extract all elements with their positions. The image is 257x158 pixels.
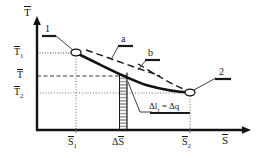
x-axis-label-text: S (222, 134, 228, 146)
dashed-curve-b (138, 64, 190, 92)
y-axis-arrowhead (33, 16, 41, 25)
hatch-fill (120, 73, 128, 130)
area-annotation-dq: Δq (169, 101, 179, 111)
y-tick-label-T1: T1 (14, 46, 24, 60)
y-tick-label-T1-sub: 1 (20, 52, 23, 59)
x-tick-label-delta-S: ΔS (112, 136, 124, 147)
callout-label-a: a (121, 34, 125, 44)
x-tick-label-S2-sub: 2 (188, 142, 191, 149)
area-annotation-equals: = (160, 101, 169, 111)
y-tick-label-T2-sub: 2 (20, 92, 23, 99)
guide-lines (37, 53, 190, 130)
x-axis-label: S (222, 134, 228, 146)
main-process-curve (74, 52, 190, 93)
point-2-marker (185, 89, 195, 96)
leader-line-1 (55, 35, 74, 51)
callout-label-1: 1 (45, 24, 50, 34)
callout-leaders (55, 35, 216, 112)
temperature-entropy-diagram: T S T1 T T2 S1 ΔS S2 1 a b 2 Δlτ = Δq (0, 0, 257, 158)
y-axis-label-text: T (24, 6, 31, 18)
y-tick-label-T: T (17, 69, 23, 80)
x-tick-label-S1-sub: 1 (74, 142, 77, 149)
x-tick-label-S2: S2 (182, 136, 191, 150)
callout-label-b: b (148, 48, 153, 58)
callout-label-2: 2 (219, 67, 224, 77)
x-tick-label-S1: S1 (68, 136, 77, 150)
callout-label-1-text: 1 (45, 23, 50, 34)
area-annotation: Δlτ = Δq (149, 102, 179, 113)
y-tick-label-T2: T2 (14, 86, 24, 100)
diagram-canvas (0, 0, 257, 158)
leader-line-a (112, 45, 119, 58)
point-markers (71, 49, 195, 96)
x-axis-arrowhead (242, 126, 251, 134)
delta-s-hatched-strip (120, 73, 128, 131)
callout-label-a-text: a (121, 33, 125, 44)
callout-label-2-text: 2 (219, 66, 224, 77)
x-tick-label-delta-S-base: S (118, 136, 124, 147)
callout-label-b-text: b (148, 47, 153, 58)
y-tick-label-T-base: T (17, 69, 23, 80)
point-1-marker (71, 49, 81, 56)
leader-line-2 (192, 78, 216, 91)
y-axis-label: T (24, 6, 31, 18)
